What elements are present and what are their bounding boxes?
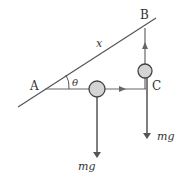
angle-arc [66,75,69,89]
label-x: x [96,37,103,50]
path-arrow-up-icon [142,42,148,49]
label-c: C [152,79,161,93]
path-arrow-right-icon [119,86,126,92]
label-theta: θ [72,77,78,88]
incline-line [18,18,156,107]
label-b: B [140,8,149,22]
label-a: A [29,79,39,93]
label-mg-2: mg [157,130,174,143]
ball-1 [89,81,105,97]
physics-diagram: A B C x θ mg mg [0,0,183,189]
label-mg-1: mg [78,160,95,173]
ball-2 [138,64,152,78]
